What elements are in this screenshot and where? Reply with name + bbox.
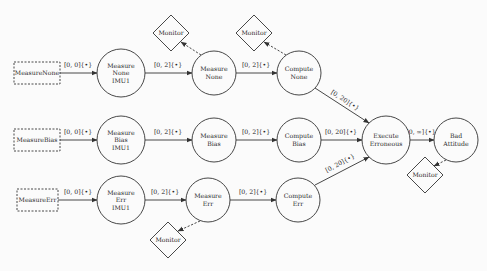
source-label: MeasureErr (19, 196, 57, 203)
state-node-ee: ExecuteErroneous (362, 116, 410, 164)
edge-timing-label: [0, 2]{•} (242, 128, 270, 136)
edge-timing-label: [0, 0]{•} (64, 61, 92, 69)
monitor-label: Monitor (155, 236, 180, 243)
state-label-line: IMU1 (112, 77, 130, 84)
state-label-line: Measure (200, 65, 228, 72)
state-nodes: MeasureNoneIMU1MeasureNoneComputeNoneMea… (97, 49, 478, 224)
monitor-node-mon4: Monitor (150, 222, 186, 258)
edge-timing-label: [0, ∞]{•} (406, 128, 435, 136)
state-node-me: MeasureErr (186, 178, 230, 222)
monitor-node-mon1: Monitor (153, 15, 189, 51)
state-node-mb_imu: MeasureBiasIMU1 (97, 116, 145, 164)
state-node-ba: BadAttitude (434, 118, 478, 162)
state-label-line: Err (116, 196, 126, 203)
state-label-line: IMU1 (112, 144, 130, 151)
edge-timing-label: [0, 0]{•} (64, 188, 92, 196)
transition-mn_imu-to-mn: [0, 2]{•} (145, 61, 192, 73)
state-label-line: Bias (292, 140, 305, 147)
monitor-link-mn (181, 42, 201, 55)
state-label-line: Measure (107, 129, 135, 136)
transition-mb_imu-to-mb: [0, 2]{•} (145, 128, 192, 140)
state-label-line: Measure (194, 192, 222, 199)
monitor-node-mon2: Monitor (236, 15, 272, 51)
source-box-src_none: MeasureNone (14, 62, 60, 84)
state-label-line: Err (293, 200, 303, 207)
edge-timing-label: [0, 0]{•} (64, 128, 92, 136)
source-box-src_err: MeasureErr (17, 189, 58, 211)
state-label-line: Bias (114, 136, 127, 143)
state-node-mn: MeasureNone (192, 51, 236, 95)
state-label-line: Execute (373, 132, 399, 139)
transition-src_err-to-me_imu: [0, 0]{•} (58, 188, 97, 200)
state-node-me_imu: MeasureErrIMU1 (97, 176, 145, 224)
state-label-line: Measure (107, 62, 135, 69)
source-box-src_bias: MeasureBias (14, 129, 60, 151)
transition-cb-to-ee: [0, 20]{•} (321, 128, 362, 140)
state-label-line: Measure (107, 189, 135, 196)
edge-timing-label: [0, 20]{•} (324, 152, 356, 174)
state-label-line: None (291, 73, 308, 80)
source-boxes: MeasureNoneMeasureBiasMeasureErr (14, 62, 60, 211)
edge-timing-label: [0, 2]{•} (154, 128, 182, 136)
edge-timing-label: [0, 2]{•} (239, 188, 267, 196)
state-label-line: Bias (207, 140, 220, 147)
monitor-link-cn (264, 42, 286, 55)
monitor-node-mon3: Monitor (407, 157, 443, 193)
transition-src_bias-to-mb_imu: [0, 0]{•} (60, 128, 97, 140)
state-label-line: Measure (200, 132, 228, 139)
state-label-line: None (206, 73, 223, 80)
transition-me_imu-to-me: [0, 2]{•} (145, 188, 186, 200)
monitor-link-me (178, 221, 200, 231)
transition-me-to-ce: [0, 2]{•} (230, 188, 276, 200)
edge-timing-label: [0, 2]{•} (151, 188, 179, 196)
state-node-mb: MeasureBias (192, 118, 236, 162)
state-node-ce: ComputeErr (276, 178, 320, 222)
state-node-mn_imu: MeasureNoneIMU1 (97, 49, 145, 97)
timed-automaton-diagram: [0, 0]{•}[0, 2]{•}[0, 2]{•}[0, 20]{•}[0,… (0, 0, 487, 271)
edge-timing-label: [0, 2]{•} (242, 61, 270, 69)
state-label-line: Attitude (442, 140, 469, 147)
monitor-label: Monitor (412, 171, 437, 178)
state-node-cb: ComputeBias (277, 118, 321, 162)
transition-mn-to-cn: [0, 2]{•} (236, 61, 277, 73)
monitor-link-ba (434, 160, 446, 166)
transition-mb-to-cb: [0, 2]{•} (236, 128, 277, 140)
transition-ce-to-ee: [0, 20]{•} (315, 152, 369, 185)
monitor-label: Monitor (158, 29, 183, 36)
edge-timing-label: [0, 20]{•} (325, 128, 357, 136)
source-label: MeasureBias (17, 136, 58, 143)
state-label-line: Err (203, 200, 213, 207)
state-label-line: IMU1 (112, 204, 130, 211)
state-node-cn: ComputeNone (277, 51, 321, 95)
transition-ee-to-ba: [0, ∞]{•} (406, 128, 435, 140)
source-label: MeasureNone (15, 69, 60, 76)
state-label-line: Bad (450, 132, 462, 139)
transition-src_none-to-mn_imu: [0, 0]{•} (60, 61, 97, 73)
edge-timing-label: [0, 2]{•} (154, 61, 182, 69)
transition-cn-to-ee: [0, 20]{•} (315, 88, 369, 123)
state-label-line: Erroneous (370, 140, 403, 147)
monitor-label: Monitor (241, 29, 266, 36)
state-label-line: None (113, 69, 130, 76)
